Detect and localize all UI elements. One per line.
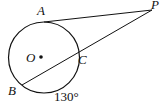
secant-pb bbox=[22, 10, 152, 85]
label-p: P bbox=[150, 0, 159, 12]
center-point-o bbox=[39, 55, 43, 59]
circle-tangent-secant-diagram: A P O C B 130° bbox=[0, 0, 162, 102]
tangent-pa bbox=[44, 10, 152, 22]
label-a: A bbox=[36, 3, 45, 18]
label-c: C bbox=[78, 52, 87, 67]
label-b: B bbox=[8, 83, 16, 98]
arc-measure-label: 130° bbox=[54, 89, 79, 102]
label-o: O bbox=[26, 50, 36, 65]
